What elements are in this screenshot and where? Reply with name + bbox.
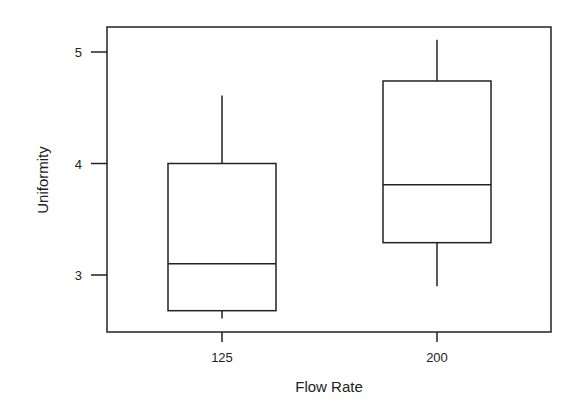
iqr-box bbox=[168, 164, 276, 311]
x-axis: 125200 bbox=[211, 332, 448, 365]
boxes bbox=[168, 40, 491, 319]
iqr-box bbox=[383, 81, 491, 243]
boxplot-chart: 345 125200 Flow Rate Uniformity bbox=[0, 0, 576, 414]
y-axis: 345 bbox=[75, 45, 107, 283]
x-tick-label: 125 bbox=[211, 350, 233, 365]
box-200 bbox=[383, 40, 491, 286]
x-tick-label: 200 bbox=[426, 350, 448, 365]
plot-frame bbox=[107, 27, 551, 332]
box-125 bbox=[168, 95, 276, 318]
y-tick-label: 3 bbox=[75, 268, 82, 283]
y-tick-label: 5 bbox=[75, 45, 82, 60]
y-tick-label: 4 bbox=[75, 157, 82, 172]
y-axis-label: Uniformity bbox=[34, 146, 51, 214]
x-axis-label: Flow Rate bbox=[295, 378, 363, 395]
